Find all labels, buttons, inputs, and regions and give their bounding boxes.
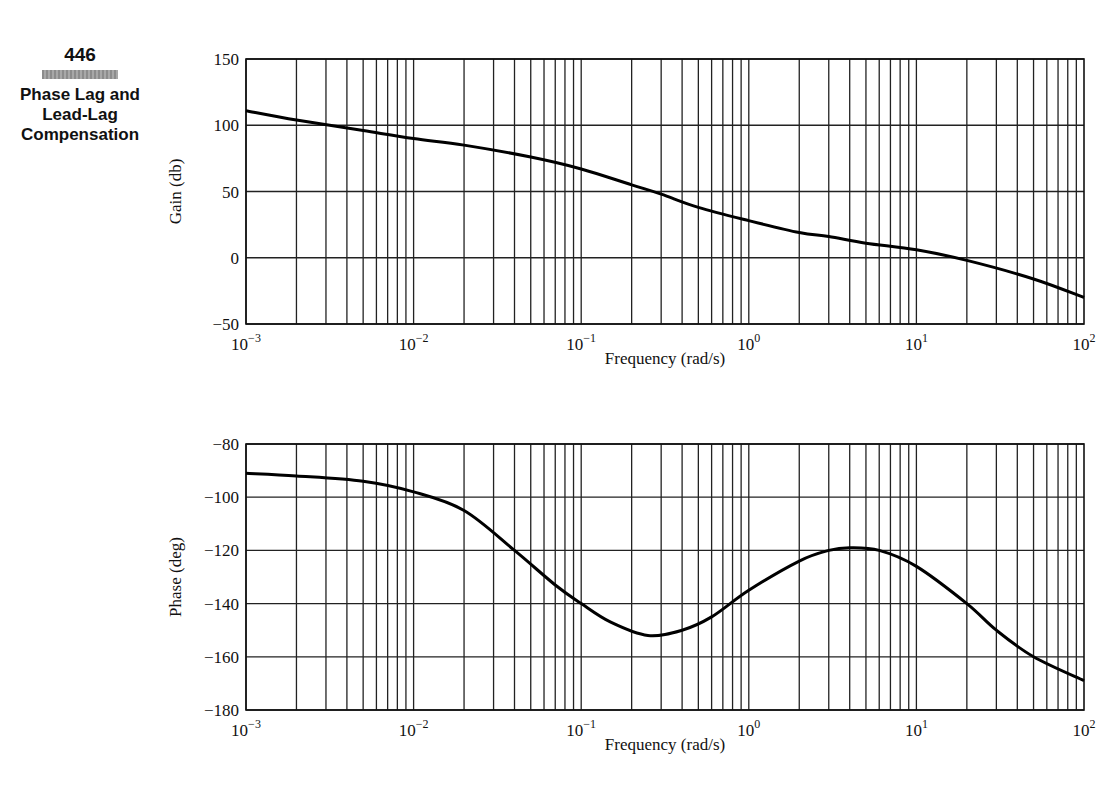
x-tick-label: 101	[905, 331, 928, 354]
x-tick-label: 101	[905, 717, 928, 740]
phase-curve	[246, 473, 1084, 680]
gain-curve	[246, 111, 1084, 298]
x-tick-label: 10−1	[566, 717, 596, 740]
x-tick-label: 102	[1073, 717, 1096, 740]
y-tick-label: −180	[204, 701, 239, 720]
bode-plots: 150100500−5010−310−210−1100101102Frequen…	[0, 0, 1103, 794]
y-tick-label: 0	[231, 249, 240, 268]
y-tick-label: 100	[214, 116, 240, 135]
x-tick-label: 100	[737, 331, 760, 354]
y-tick-label: −160	[204, 648, 239, 667]
x-tick-label: 102	[1073, 331, 1096, 354]
y-tick-label: −80	[212, 435, 239, 454]
x-axis-label: Frequency (rad/s)	[605, 735, 725, 754]
phase-plot: −80−100−120−140−160−18010−310−210−110010…	[166, 435, 1096, 754]
x-axis-label: Frequency (rad/s)	[605, 349, 725, 368]
y-tick-label: −140	[204, 595, 239, 614]
x-tick-label: 10−3	[231, 717, 261, 740]
y-tick-label: 150	[214, 50, 240, 69]
x-tick-label: 10−2	[399, 331, 429, 354]
y-tick-label: −120	[204, 541, 239, 560]
y-axis-label: Gain (db)	[166, 159, 185, 225]
y-tick-label: 50	[222, 183, 239, 202]
gain-plot: 150100500−5010−310−210−1100101102Frequen…	[166, 50, 1096, 368]
x-tick-label: 10−2	[399, 717, 429, 740]
y-tick-label: −50	[212, 315, 239, 334]
y-axis-label: Phase (deg)	[166, 537, 185, 617]
x-tick-label: 100	[737, 717, 760, 740]
x-tick-label: 10−3	[231, 331, 261, 354]
x-tick-label: 10−1	[566, 331, 596, 354]
y-tick-label: −100	[204, 488, 239, 507]
